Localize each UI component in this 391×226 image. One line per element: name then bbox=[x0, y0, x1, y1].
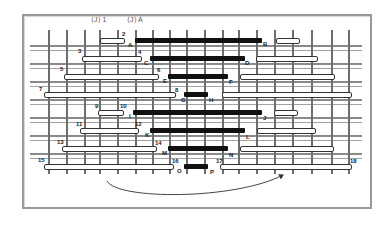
curved-arrow-icon bbox=[0, 0, 391, 226]
